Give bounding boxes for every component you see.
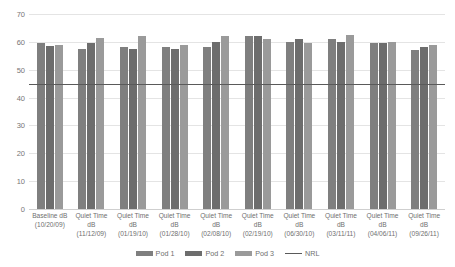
bar-pod-3[interactable] [221, 36, 229, 209]
bar-pod-2[interactable] [87, 43, 95, 209]
x-tick-label: Quiet Time dB(11/12/09) [71, 211, 113, 239]
bar-group [362, 14, 404, 209]
x-tick-label: Quiet Time dB(06/30/10) [279, 211, 321, 239]
bar-pod-1[interactable] [203, 47, 211, 209]
bar-pod-3[interactable] [429, 45, 437, 209]
bar-pod-1[interactable] [245, 36, 253, 209]
bar-pod-2[interactable] [337, 42, 345, 209]
bar-group [320, 14, 362, 209]
legend-label: Pod 1 [156, 249, 175, 258]
bar-pod-1[interactable] [162, 47, 170, 209]
chart-legend: Pod 1Pod 2Pod 3NRL [0, 249, 455, 258]
x-tick-label-line1: Quiet Time dB [238, 211, 278, 229]
bar-pod-2[interactable] [379, 43, 387, 209]
noise-level-bar-chart: 010203040506070 Baseline dB(10/20/09)Qui… [0, 0, 455, 267]
x-tick-label-line1: Quiet Time dB [404, 211, 444, 229]
y-tick-label-20: 20 [17, 149, 25, 158]
bar-group [195, 14, 237, 209]
x-tick-label: Quiet Time dB(02/19/10) [237, 211, 279, 239]
legend-item-nrl[interactable]: NRL [285, 249, 319, 258]
x-tick-label: Quiet Time dB(01/28/10) [154, 211, 196, 239]
y-tick-label-30: 30 [17, 121, 25, 130]
x-tick-label-line2: (09/26/11) [404, 229, 444, 238]
bar-group [29, 14, 71, 209]
legend-swatch-icon [285, 253, 302, 255]
y-tick-label-10: 10 [17, 177, 25, 186]
x-tick-label-line1: Quiet Time dB [321, 211, 361, 229]
legend-swatch-icon [235, 251, 252, 256]
bar-pod-2[interactable] [171, 49, 179, 209]
bar-group [403, 14, 445, 209]
bar-pod-2[interactable] [46, 46, 54, 209]
x-tick-label: Baseline dB(10/20/09) [29, 211, 71, 239]
bar-pod-3[interactable] [388, 42, 396, 209]
x-tick-label: Quiet Time dB(03/11/11) [320, 211, 362, 239]
nrl-threshold-line [29, 84, 445, 85]
bar-pod-3[interactable] [346, 35, 354, 209]
bar-pod-3[interactable] [138, 36, 146, 209]
legend-swatch-icon [136, 251, 153, 256]
bar-group [279, 14, 321, 209]
x-tick-label-line2: (01/28/10) [155, 229, 195, 238]
bar-pod-2[interactable] [420, 47, 428, 209]
x-tick-label-line2: (01/19/10) [113, 229, 153, 238]
bars-layer [29, 14, 445, 209]
legend-item-pod-2[interactable]: Pod 2 [185, 249, 224, 258]
x-tick-label: Quiet Time dB(01/19/10) [112, 211, 154, 239]
bar-pod-2[interactable] [129, 49, 137, 209]
y-tick-label-60: 60 [17, 37, 25, 46]
x-tick-label-line1: Baseline dB [30, 211, 70, 220]
x-axis-labels: Baseline dB(10/20/09)Quiet Time dB(11/12… [29, 211, 445, 239]
bar-pod-3[interactable] [180, 45, 188, 209]
x-tick-label: Quiet Time dB(04/06/11) [362, 211, 404, 239]
x-tick-label-line2: (10/20/09) [30, 220, 70, 229]
x-tick-label-line2: (02/19/10) [238, 229, 278, 238]
legend-item-pod-3[interactable]: Pod 3 [235, 249, 274, 258]
x-tick-label-line1: Quiet Time dB [280, 211, 320, 229]
bar-group [237, 14, 279, 209]
bar-pod-3[interactable] [263, 39, 271, 209]
x-tick-label-line1: Quiet Time dB [196, 211, 236, 229]
x-tick-label-line1: Quiet Time dB [72, 211, 112, 229]
bar-pod-1[interactable] [370, 43, 378, 209]
x-tick-label-line2: (11/12/09) [72, 229, 112, 238]
x-tick-label-line1: Quiet Time dB [363, 211, 403, 229]
x-tick-label-line2: (03/11/11) [321, 229, 361, 238]
bar-pod-3[interactable] [304, 43, 312, 209]
x-tick-label-line1: Quiet Time dB [113, 211, 153, 229]
bar-pod-3[interactable] [96, 38, 104, 209]
x-tick-label: Quiet Time dB(09/26/11) [403, 211, 445, 239]
y-tick-label-50: 50 [17, 65, 25, 74]
y-axis: 010203040506070 [0, 14, 29, 209]
x-axis-line [29, 209, 445, 210]
legend-item-pod-1[interactable]: Pod 1 [136, 249, 175, 258]
legend-swatch-icon [185, 251, 202, 256]
legend-label: Pod 2 [205, 249, 224, 258]
y-tick-label-0: 0 [21, 205, 25, 214]
bar-pod-1[interactable] [286, 42, 294, 209]
bar-pod-3[interactable] [55, 45, 63, 209]
y-tick-label-70: 70 [17, 10, 25, 19]
bar-pod-2[interactable] [295, 39, 303, 209]
bar-pod-1[interactable] [37, 43, 45, 209]
x-tick-label-line2: (04/06/11) [363, 229, 403, 238]
x-tick-label-line2: (06/30/10) [280, 229, 320, 238]
bar-pod-1[interactable] [328, 39, 336, 209]
x-tick-label-line2: (02/08/10) [196, 229, 236, 238]
x-tick-label-line1: Quiet Time dB [155, 211, 195, 229]
y-tick-label-40: 40 [17, 93, 25, 102]
bar-pod-1[interactable] [411, 50, 419, 209]
legend-label: Pod 3 [255, 249, 274, 258]
bar-group [154, 14, 196, 209]
bar-pod-2[interactable] [212, 42, 220, 209]
bar-group [112, 14, 154, 209]
bar-pod-2[interactable] [254, 36, 262, 209]
bar-pod-1[interactable] [78, 49, 86, 209]
bar-pod-1[interactable] [120, 47, 128, 209]
x-tick-label: Quiet Time dB(02/08/10) [195, 211, 237, 239]
legend-label: NRL [305, 249, 319, 258]
bar-group [71, 14, 113, 209]
